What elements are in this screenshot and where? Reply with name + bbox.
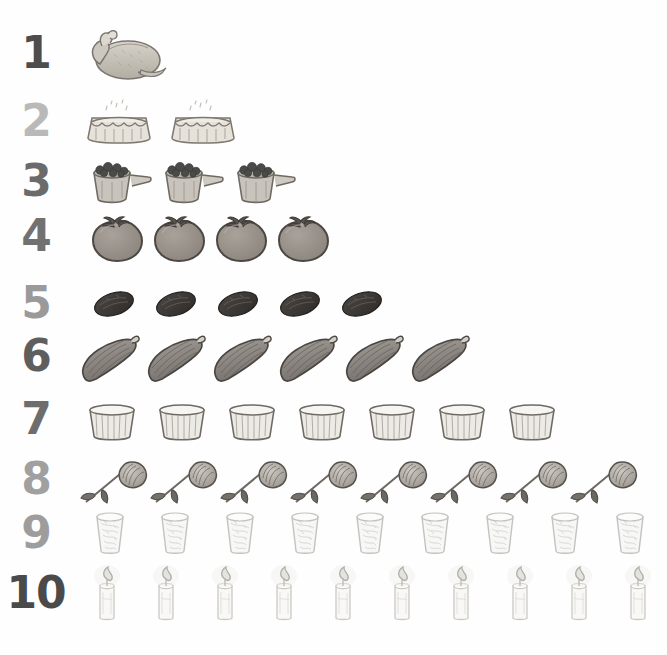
- measuring-cup-berries-icon: [82, 155, 154, 207]
- counting-row-6: 6: [0, 325, 472, 387]
- bowl-icon: [150, 394, 220, 444]
- tomato-icon: [274, 207, 336, 265]
- rose-icon: [568, 452, 638, 506]
- numeral-9: 9: [0, 511, 72, 555]
- counting-row-9: 9: [0, 502, 665, 564]
- numeral-8: 8: [0, 457, 72, 501]
- numeral-1: 1: [0, 31, 72, 75]
- counting-row-4: 4: [0, 205, 336, 267]
- date-fruit-icon: [334, 283, 396, 323]
- candle-icon: [198, 564, 257, 622]
- date-fruit-icon: [210, 283, 272, 323]
- candle-icon: [552, 564, 611, 622]
- item-group-3: [82, 155, 298, 207]
- candle-icon: [316, 564, 375, 622]
- numeral-2: 2: [0, 99, 72, 143]
- item-group-10: [80, 564, 667, 622]
- rose-icon: [288, 452, 358, 506]
- bowl-icon: [360, 394, 430, 444]
- drinking-glass-icon: [80, 507, 145, 559]
- zucchini-icon: [208, 327, 274, 385]
- zucchini-icon: [76, 327, 142, 385]
- numeral-5: 5: [0, 281, 72, 325]
- measuring-cup-berries-icon: [154, 155, 226, 207]
- drinking-glass-icon: [535, 507, 600, 559]
- rose-icon: [148, 452, 218, 506]
- measuring-cup-berries-icon: [226, 155, 298, 207]
- candle-icon: [493, 564, 552, 622]
- zucchini-icon: [142, 327, 208, 385]
- candle-icon: [80, 564, 139, 622]
- candle-icon: [257, 564, 316, 622]
- tomato-icon: [212, 207, 274, 265]
- rose-icon: [218, 452, 288, 506]
- zucchini-icon: [340, 327, 406, 385]
- item-group-6: [76, 327, 472, 385]
- zucchini-icon: [274, 327, 340, 385]
- date-fruit-icon: [86, 283, 148, 323]
- counting-row-2: 2: [0, 90, 246, 152]
- drinking-glass-icon: [210, 507, 275, 559]
- counting-row-7: 7: [0, 388, 570, 450]
- rose-icon: [358, 452, 428, 506]
- drinking-glass-icon: [145, 507, 210, 559]
- bowl-icon: [290, 394, 360, 444]
- item-group-8: [78, 452, 638, 506]
- item-group-2: [78, 98, 246, 144]
- rose-icon: [498, 452, 568, 506]
- item-group-7: [80, 394, 570, 444]
- pie-icon: [162, 98, 244, 144]
- date-fruit-icon: [148, 283, 210, 323]
- numeral-6: 6: [0, 334, 72, 378]
- counting-row-3: 3: [0, 150, 298, 212]
- drinking-glass-icon: [600, 507, 665, 559]
- tomato-icon: [150, 207, 212, 265]
- candle-icon: [139, 564, 198, 622]
- numeral-3: 3: [0, 159, 72, 203]
- drinking-glass-icon: [405, 507, 470, 559]
- roast-turkey-icon: [78, 24, 173, 82]
- counting-row-1: 1: [0, 22, 179, 84]
- bowl-icon: [80, 394, 150, 444]
- numeral-4: 4: [0, 214, 72, 258]
- drinking-glass-icon: [340, 507, 405, 559]
- counting-chart: 12345678910: [0, 0, 667, 655]
- rose-icon: [78, 452, 148, 506]
- candle-icon: [611, 564, 667, 622]
- numeral-7: 7: [0, 397, 72, 441]
- zucchini-icon: [406, 327, 472, 385]
- item-group-4: [88, 207, 336, 265]
- candle-icon: [434, 564, 493, 622]
- bowl-icon: [500, 394, 570, 444]
- drinking-glass-icon: [275, 507, 340, 559]
- rose-icon: [428, 452, 498, 506]
- tomato-icon: [88, 207, 150, 265]
- item-group-1: [78, 24, 179, 82]
- counting-row-10: 10: [0, 562, 667, 624]
- item-group-5: [86, 283, 396, 323]
- numeral-10: 10: [0, 571, 72, 615]
- bowl-icon: [430, 394, 500, 444]
- candle-icon: [375, 564, 434, 622]
- bowl-icon: [220, 394, 290, 444]
- date-fruit-icon: [272, 283, 334, 323]
- counting-row-8: 8: [0, 448, 638, 510]
- item-group-9: [80, 507, 665, 559]
- drinking-glass-icon: [470, 507, 535, 559]
- pie-icon: [78, 98, 160, 144]
